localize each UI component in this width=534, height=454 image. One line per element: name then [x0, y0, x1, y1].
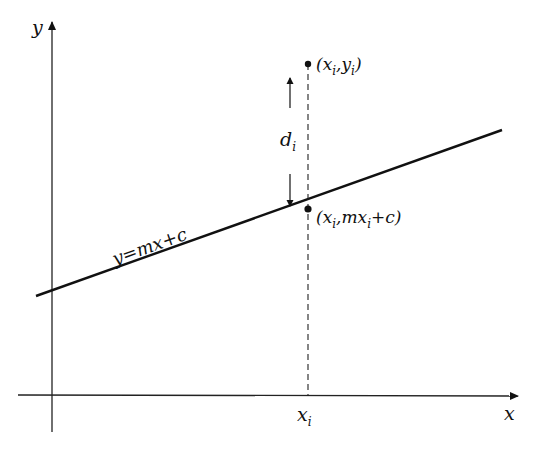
data-point-label-close: )	[355, 54, 362, 74]
fitted-point-sub1: i	[332, 217, 336, 231]
x-tick-main: x	[297, 403, 308, 425]
fitted-point	[304, 205, 311, 212]
y-axis-label: y	[32, 18, 43, 37]
fitted-point-label-mid: ,mx	[336, 207, 367, 227]
fitted-point-label-open: (x	[316, 207, 332, 227]
x-axis-label: x	[504, 404, 515, 423]
data-point-sub2: i	[351, 64, 355, 78]
data-point-label: (xi,yi)	[316, 56, 362, 73]
residual-label: di	[280, 130, 296, 149]
fitted-point-label-close: +c)	[371, 207, 401, 227]
data-point-sub1: i	[332, 64, 336, 78]
x-tick-sub: i	[308, 415, 312, 429]
data-point	[305, 61, 311, 67]
fitted-point-sub2: i	[367, 217, 371, 231]
diagram-canvas	[0, 0, 534, 454]
x-axis	[18, 395, 518, 396]
data-point-label-mid: ,y	[336, 54, 351, 74]
data-point-label-open: (x	[316, 54, 332, 74]
residual-main: d	[280, 128, 292, 150]
x-tick-label: xi	[297, 405, 312, 424]
residual-sub: i	[292, 140, 296, 154]
regression-line	[36, 130, 502, 296]
fitted-point-label: (xi,mxi+c)	[316, 209, 401, 226]
